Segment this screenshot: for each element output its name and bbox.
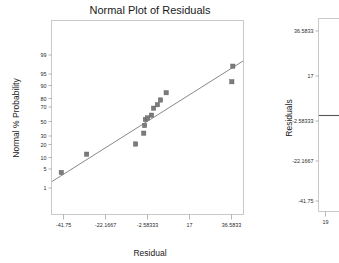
y-tick-label: 5 (44, 166, 47, 172)
data-point (59, 170, 63, 174)
right-panel: 36.5833 17 -2.58333 -22.1667 -41.75 (284, 19, 339, 226)
y-tick-30: 30 (41, 133, 52, 139)
y-tick-80: 80 (41, 96, 52, 102)
scatter-series (59, 64, 235, 175)
chart-title: Normal Plot of Residuals (89, 4, 211, 16)
y-tick-10: 10 (41, 155, 52, 161)
data-point (142, 131, 146, 135)
right-y-tick-3: -2.58333 (292, 118, 318, 124)
figure-canvas: Normal Plot of Residuals 99 95 90 (0, 0, 339, 263)
x-tick-1: -41.75 (56, 215, 71, 229)
data-point (230, 80, 234, 84)
right-y-tick-label: -2.58333 (292, 118, 313, 124)
right-y-tick-2: 17 (308, 73, 319, 79)
x-tick-3: -2.58333 (137, 215, 158, 229)
y-tick-label: 30 (41, 133, 47, 139)
y-tick-70: 70 (41, 104, 52, 110)
right-y-tick-1: 36.5833 (294, 28, 319, 34)
right-y-axis-ticks: 36.5833 17 -2.58333 -22.1667 -41.75 (292, 28, 318, 204)
right-y-tick-label: 36.5833 (294, 28, 314, 34)
y-tick-90: 90 (41, 83, 52, 89)
y-tick-label: 90 (41, 83, 47, 89)
y-tick-label: 10 (41, 155, 47, 161)
x-tick-label: 36.5833 (222, 222, 242, 228)
right-y-tick-label: -41.75 (298, 198, 313, 204)
data-point (145, 116, 149, 120)
x-tick-label: -22.1667 (95, 222, 116, 228)
y-tick-label: 50 (41, 119, 47, 125)
y-tick-label: 20 (41, 142, 47, 148)
x-axis-ticks: -41.75 -22.1667 -2.58333 17 36.5833 (56, 215, 241, 229)
right-y-tick-5: -41.75 (298, 198, 318, 204)
data-point (142, 123, 146, 127)
y-axis-ticks: 99 95 90 80 70 (41, 52, 52, 191)
x-axis-title: Residual (133, 248, 166, 258)
y-tick-label: 99 (41, 52, 47, 58)
y-tick-95: 95 (41, 71, 52, 77)
data-point (158, 98, 162, 102)
data-point (84, 152, 88, 156)
right-x-axis-ticks: 19 (323, 212, 329, 226)
y-tick-20: 20 (41, 142, 52, 148)
data-point (155, 103, 159, 107)
x-tick-5: 36.5833 (222, 215, 242, 229)
data-point (164, 91, 168, 95)
x-tick-2: -22.1667 (95, 215, 116, 229)
y-axis-title: Normal % Probability (11, 78, 21, 158)
normal-plot-figure: Normal Plot of Residuals 99 95 90 (0, 0, 339, 263)
x-tick-label: 17 (187, 222, 193, 228)
left-panel: Normal Plot of Residuals 99 95 90 (11, 4, 244, 258)
y-tick-5: 5 (44, 166, 52, 172)
data-point (231, 64, 235, 68)
right-y-tick-label: -22.1667 (292, 158, 313, 164)
right-y-tick-4: -22.1667 (292, 158, 318, 164)
x-tick-label: -2.58333 (137, 222, 158, 228)
right-y-axis-title: Residuals (284, 99, 294, 136)
y-tick-label: 70 (41, 104, 47, 110)
right-y-tick-label: 17 (308, 73, 314, 79)
y-tick-label: 1 (44, 185, 47, 191)
x-tick-4: 17 (187, 215, 193, 229)
right-x-tick-label: 19 (323, 219, 329, 225)
x-tick-label: -41.75 (56, 222, 71, 228)
y-tick-99: 99 (41, 52, 52, 58)
data-point (149, 113, 153, 117)
data-point (133, 142, 137, 146)
y-tick-50: 50 (41, 119, 52, 125)
y-tick-1: 1 (44, 185, 52, 191)
y-tick-label: 95 (41, 71, 47, 77)
y-tick-label: 80 (41, 96, 47, 102)
